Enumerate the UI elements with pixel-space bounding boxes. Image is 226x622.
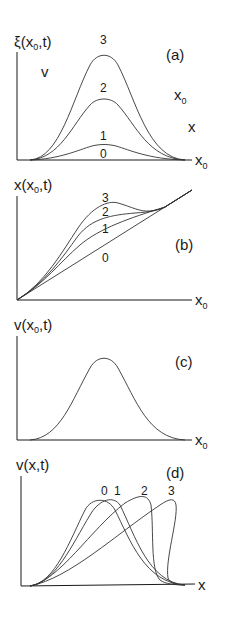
panel-d-x-axis — [21, 584, 195, 586]
panel-a-note-x0: x0 — [174, 86, 187, 106]
panel-a-curve-1 — [30, 145, 185, 161]
panel-b: x(x0,t) x0 3 2 1 0 (b) — [14, 176, 208, 311]
panel-a-ylabel: ξ(x0,t) — [14, 33, 52, 52]
panel-b-xlabel: x0 — [195, 291, 208, 311]
panel-c-tag: (c) — [175, 353, 193, 370]
panel-d-label-3: 3 — [168, 484, 175, 498]
panel-b-label-1: 1 — [102, 222, 109, 236]
panel-b-label-3: 3 — [102, 191, 109, 205]
panel-b-tag: (b) — [175, 236, 193, 253]
panel-a-label-2: 2 — [100, 81, 107, 95]
panel-d-label-2: 2 — [141, 484, 148, 498]
panel-d: v(x,t) x 0 1 2 3 (d) — [16, 456, 206, 593]
panel-b-label-2: 2 — [102, 205, 109, 219]
panel-d-label-1: 1 — [114, 484, 121, 498]
panel-b-ylabel: x(x0,t) — [14, 176, 52, 195]
panel-a-tag: (a) — [166, 46, 184, 63]
panel-c: v(x0,t) x0 (c) — [14, 316, 208, 451]
panel-c-curve — [30, 358, 185, 440]
panel-c-ylabel: v(x0,t) — [14, 316, 52, 335]
panel-d-label-0: 0 — [101, 484, 108, 498]
panel-a-label-3: 3 — [100, 33, 107, 47]
panel-d-xlabel: x — [198, 576, 206, 593]
panel-d-tag: (d) — [166, 464, 184, 481]
panel-a-note-x: x — [188, 118, 196, 135]
panel-a-note-v: v — [41, 63, 49, 80]
panel-a-label-1: 1 — [100, 129, 107, 143]
panel-a-xlabel: x0 — [195, 151, 208, 171]
panel-a: ξ(x0,t) x0 3 2 1 0 (a) v x0 x — [14, 33, 208, 171]
panel-d-ylabel: v(x,t) — [16, 456, 49, 473]
panel-a-curve-2 — [30, 99, 185, 160]
panel-a-label-0: 0 — [100, 147, 107, 161]
panel-d-curve-3 — [30, 500, 185, 586]
figure: ξ(x0,t) x0 3 2 1 0 (a) v x0 x x(x0,t) x0… — [0, 0, 226, 622]
panel-c-xlabel: x0 — [195, 431, 208, 451]
panel-b-label-0: 0 — [102, 251, 109, 265]
